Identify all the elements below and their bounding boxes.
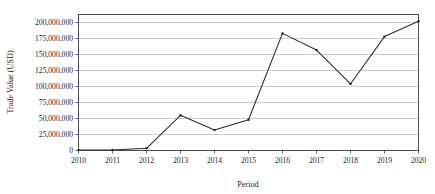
- x-tick-label: 2014: [207, 156, 222, 165]
- data-point-marker: [315, 49, 317, 51]
- x-tick-label: 2017: [309, 156, 324, 165]
- line-chart: 025,000,00050,000,00075,000,000100,000,0…: [0, 0, 435, 194]
- x-tick-label: 2015: [241, 156, 256, 165]
- x-tick-label: 2012: [139, 156, 154, 165]
- y-tick-label: 100,000,000: [35, 82, 73, 91]
- data-point-marker: [417, 20, 419, 22]
- data-point-marker: [281, 32, 283, 34]
- data-point-marker: [111, 149, 113, 151]
- x-tick-label: 2013: [173, 156, 188, 165]
- data-point-marker: [77, 149, 79, 151]
- y-tick-label: 50,000,000: [39, 114, 73, 123]
- data-point-marker: [247, 119, 249, 121]
- y-tick-label: 175,000,000: [35, 34, 73, 43]
- y-tick-label: 150,000,000: [35, 50, 73, 59]
- x-tick-label: 2011: [105, 156, 120, 165]
- x-tick-label: 2018: [343, 156, 358, 165]
- data-point-marker: [383, 36, 385, 38]
- y-tick-label: 200,000,000: [35, 18, 73, 27]
- chart-figure: 025,000,00050,000,00075,000,000100,000,0…: [0, 0, 435, 194]
- data-point-marker: [349, 83, 351, 85]
- y-tick-labels-group: 025,000,00050,000,00075,000,000100,000,0…: [35, 18, 73, 155]
- y-tick-label: 25,000,000: [39, 130, 73, 139]
- x-axis-title: Period: [237, 180, 258, 189]
- x-tick-label: 2016: [275, 156, 290, 165]
- x-tick-label: 2010: [71, 156, 86, 165]
- y-axis-title: Trade Value (USD): [6, 50, 15, 113]
- x-tick-label: 2019: [377, 156, 392, 165]
- data-point-marker: [213, 129, 215, 131]
- y-tick-label: 75,000,000: [39, 98, 73, 107]
- x-tick-label: 2020: [411, 156, 426, 165]
- data-point-marker: [145, 147, 147, 149]
- y-tick-label: 0: [69, 146, 73, 155]
- y-tick-label: 125,000,000: [35, 66, 73, 75]
- data-point-marker: [179, 114, 181, 116]
